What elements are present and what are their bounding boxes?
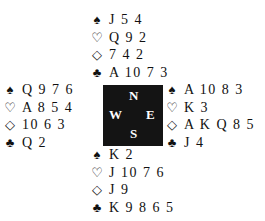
east-diamonds-row: ◇A K Q 8 5 bbox=[164, 116, 255, 134]
heart-icon: ♡ bbox=[89, 29, 105, 47]
south-spades-row: ♠K 2 bbox=[89, 146, 175, 164]
diamond-icon: ◇ bbox=[89, 181, 105, 199]
west-hand: ♠Q 9 7 6 ♡A 8 5 4 ◇10 6 3 ♣Q 2 bbox=[2, 81, 74, 151]
heart-icon: ♡ bbox=[164, 99, 180, 117]
spade-icon: ♠ bbox=[2, 81, 18, 99]
south-diamonds: J 9 bbox=[109, 181, 129, 199]
spade-icon: ♠ bbox=[89, 146, 105, 164]
north-spades-row: ♠J 5 4 bbox=[89, 11, 169, 29]
west-hearts-row: ♡A 8 5 4 bbox=[2, 99, 74, 117]
east-clubs-row: ♣J 4 bbox=[164, 134, 255, 152]
west-spades-row: ♠Q 9 7 6 bbox=[2, 81, 74, 99]
north-diamonds: 7 4 2 bbox=[109, 46, 145, 64]
west-diamonds-row: ◇10 6 3 bbox=[2, 116, 74, 134]
south-diamonds-row: ◇J 9 bbox=[89, 181, 175, 199]
south-spades: K 2 bbox=[109, 146, 134, 164]
spade-icon: ♠ bbox=[164, 81, 180, 99]
west-diamonds: 10 6 3 bbox=[22, 116, 66, 134]
diamond-icon: ◇ bbox=[89, 46, 105, 64]
east-hand: ♠A 10 8 3 ♡K 3 ◇A K Q 8 5 ♣J 4 bbox=[164, 81, 255, 151]
north-hand: ♠J 5 4 ♡Q 9 2 ◇7 4 2 ♣A 10 7 3 bbox=[89, 11, 169, 81]
east-diamonds: A K Q 8 5 bbox=[184, 116, 255, 134]
south-hearts-row: ♡J 10 7 6 bbox=[89, 164, 175, 182]
compass-table: N W E S bbox=[103, 85, 163, 146]
north-hearts-row: ♡Q 9 2 bbox=[89, 29, 169, 47]
east-clubs: J 4 bbox=[184, 134, 204, 152]
south-clubs-row: ♣K 9 8 6 5 bbox=[89, 199, 175, 217]
east-spades: A 10 8 3 bbox=[184, 81, 244, 99]
west-clubs-row: ♣Q 2 bbox=[2, 134, 74, 152]
heart-icon: ♡ bbox=[89, 164, 105, 182]
club-icon: ♣ bbox=[2, 134, 18, 152]
south-clubs: K 9 8 6 5 bbox=[109, 199, 175, 217]
north-clubs-row: ♣A 10 7 3 bbox=[89, 64, 169, 82]
south-hearts: J 10 7 6 bbox=[109, 164, 165, 182]
east-spades-row: ♠A 10 8 3 bbox=[164, 81, 255, 99]
compass-south: S bbox=[130, 126, 137, 142]
north-hearts: Q 9 2 bbox=[109, 29, 148, 47]
south-hand: ♠K 2 ♡J 10 7 6 ◇J 9 ♣K 9 8 6 5 bbox=[89, 146, 175, 216]
north-diamonds-row: ◇7 4 2 bbox=[89, 46, 169, 64]
compass-east: E bbox=[146, 107, 155, 123]
north-clubs: A 10 7 3 bbox=[109, 64, 169, 82]
diamond-icon: ◇ bbox=[164, 116, 180, 134]
diamond-icon: ◇ bbox=[2, 116, 18, 134]
compass-north: N bbox=[129, 88, 138, 104]
club-icon: ♣ bbox=[89, 199, 105, 217]
west-hearts: A 8 5 4 bbox=[22, 99, 73, 117]
west-clubs: Q 2 bbox=[22, 134, 47, 152]
east-hearts: K 3 bbox=[184, 99, 209, 117]
west-spades: Q 9 7 6 bbox=[22, 81, 74, 99]
spade-icon: ♠ bbox=[89, 11, 105, 29]
club-icon: ♣ bbox=[89, 64, 105, 82]
heart-icon: ♡ bbox=[2, 99, 18, 117]
north-spades: J 5 4 bbox=[109, 11, 143, 29]
compass-west: W bbox=[109, 107, 122, 123]
east-hearts-row: ♡K 3 bbox=[164, 99, 255, 117]
